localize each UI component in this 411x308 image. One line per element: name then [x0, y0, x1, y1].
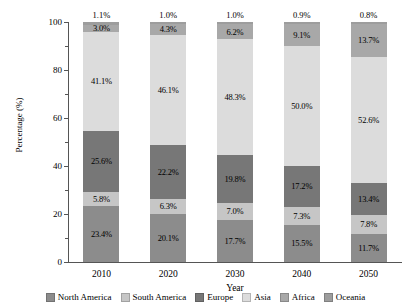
bar-segment-label: 22.2%	[158, 168, 179, 177]
bar-segment[interactable]: 7.8%	[351, 215, 387, 234]
plot-area: 020406080100 23.4%5.8%25.6%41.1%3.0%1.1%…	[68, 22, 402, 262]
bar-group: 11.7%7.8%13.4%52.6%13.7%0.8%2050	[351, 22, 387, 262]
bar-segment-label: 17.2%	[291, 182, 312, 191]
x-axis-tick-label: 2040	[292, 269, 311, 279]
x-axis-tick-label: 2050	[359, 269, 378, 279]
bar-segment-label: 7.0%	[227, 207, 244, 216]
legend-swatch-icon	[46, 293, 55, 302]
bar-segment[interactable]: 6.3%	[150, 199, 186, 214]
bar-segment[interactable]: 19.8%	[217, 155, 253, 203]
stacked-bar[interactable]: 23.4%5.8%25.6%41.1%3.0%1.1%	[83, 22, 119, 262]
bar-segment[interactable]: 15.5%	[284, 225, 320, 262]
bar-segment[interactable]: 41.1%	[83, 32, 119, 131]
y-axis-minor-tick	[65, 190, 68, 191]
y-axis-tick-label: 0	[58, 257, 63, 267]
bar-segment[interactable]: 3.0%	[83, 25, 119, 32]
y-axis-tick	[64, 118, 68, 119]
bar-segment-label: 52.6%	[358, 116, 379, 125]
bar-segment[interactable]: 9.1%	[284, 24, 320, 46]
bar-segment-label: 50.0%	[291, 102, 312, 111]
bar-segment-label: 6.3%	[160, 202, 177, 211]
stacked-bar-chart: Percentage (%) 020406080100 23.4%5.8%25.…	[0, 0, 411, 308]
bar-segment[interactable]: 13.4%	[351, 183, 387, 215]
y-axis-tick-label: 80	[53, 65, 62, 75]
bar-segment[interactable]: 23.4%	[83, 206, 119, 262]
bar-segment[interactable]: 0.9%	[284, 22, 320, 24]
bar-segment[interactable]: 20.1%	[150, 214, 186, 262]
bar-segment[interactable]: 0.8%	[351, 22, 387, 24]
bar-segment-label: 19.8%	[225, 175, 246, 184]
x-axis-line	[68, 262, 402, 263]
x-axis-tick-label: 2030	[226, 269, 245, 279]
bar-segment-label: 17.7%	[225, 237, 246, 246]
y-axis-tick	[64, 22, 68, 23]
bar-segment[interactable]: 46.1%	[150, 35, 186, 146]
bar-segment-label-above: 0.8%	[360, 10, 378, 20]
bar-segment-label-above: 1.0%	[226, 10, 244, 20]
bar-segment[interactable]: 6.2%	[217, 24, 253, 39]
bar-segment-label: 41.1%	[91, 77, 112, 86]
bar-segment-label: 13.4%	[358, 195, 379, 204]
bar-segment-label: 4.3%	[160, 25, 177, 34]
legend-item[interactable]: Oceania	[324, 292, 365, 302]
bar-group: 20.1%6.3%22.2%46.1%4.3%1.0%2020	[150, 22, 186, 262]
legend-label: Europe	[207, 292, 233, 302]
stacked-bar[interactable]: 20.1%6.3%22.2%46.1%4.3%1.0%	[150, 22, 186, 262]
y-axis-tick-label: 100	[49, 17, 63, 27]
legend-label: Asia	[254, 292, 271, 302]
stacked-bar[interactable]: 15.5%7.3%17.2%50.0%9.1%0.9%	[284, 22, 320, 262]
bar-segment-label: 7.8%	[360, 220, 377, 229]
legend-swatch-icon	[195, 293, 204, 302]
y-axis-minor-tick	[65, 238, 68, 239]
bar-segment-label-above: 1.0%	[159, 10, 177, 20]
bar-segment-label: 7.3%	[293, 212, 310, 221]
bar-segment[interactable]: 11.7%	[351, 234, 387, 262]
bar-group: 17.7%7.0%19.8%48.3%6.2%1.0%2030	[217, 22, 253, 262]
y-axis-minor-tick	[65, 94, 68, 95]
bar-segment[interactable]: 17.7%	[217, 220, 253, 262]
bar-segment-label: 48.3%	[225, 93, 246, 102]
x-axis-tick-label: 2020	[159, 269, 178, 279]
bar-segment-label: 20.1%	[158, 234, 179, 243]
bar-segment[interactable]: 7.0%	[217, 203, 253, 220]
bar-segment[interactable]: 7.3%	[284, 207, 320, 225]
stacked-bar[interactable]: 11.7%7.8%13.4%52.6%13.7%0.8%	[351, 22, 387, 262]
legend-label: South America	[133, 292, 187, 302]
bar-segment[interactable]: 52.6%	[351, 57, 387, 183]
y-axis-minor-tick	[65, 46, 68, 47]
bar-segment-label-above: 0.9%	[293, 10, 311, 20]
y-axis-line	[68, 22, 69, 262]
bar-segment-label-above: 1.1%	[93, 10, 111, 20]
legend-swatch-icon	[121, 293, 130, 302]
bar-segment[interactable]: 50.0%	[284, 46, 320, 166]
legend-item[interactable]: South America	[121, 292, 187, 302]
legend-item[interactable]: Europe	[195, 292, 233, 302]
bar-segment[interactable]: 25.6%	[83, 131, 119, 192]
legend-item[interactable]: North America	[46, 292, 112, 302]
bar-segment[interactable]: 1.0%	[150, 22, 186, 24]
legend-label: Africa	[292, 292, 315, 302]
y-axis-tick	[64, 70, 68, 71]
bar-segment-label: 23.4%	[91, 230, 112, 239]
bar-segment[interactable]: 1.1%	[83, 22, 119, 25]
stacked-bar[interactable]: 17.7%7.0%19.8%48.3%6.2%1.0%	[217, 22, 253, 262]
bar-segment[interactable]: 13.7%	[351, 24, 387, 57]
y-axis-minor-tick	[65, 142, 68, 143]
bar-group: 15.5%7.3%17.2%50.0%9.1%0.9%2040	[284, 22, 320, 262]
bar-segment-label: 5.8%	[93, 195, 110, 204]
bar-segment-label: 11.7%	[358, 244, 379, 253]
bar-segment[interactable]: 1.0%	[217, 22, 253, 24]
y-axis-tick	[64, 262, 68, 263]
legend-swatch-icon	[242, 293, 251, 302]
bar-segment-label: 25.6%	[91, 157, 112, 166]
bar-segment[interactable]: 48.3%	[217, 39, 253, 155]
bar-segment[interactable]: 4.3%	[150, 24, 186, 34]
bar-segment[interactable]: 5.8%	[83, 192, 119, 206]
bar-segment[interactable]: 17.2%	[284, 166, 320, 207]
bar-segment[interactable]: 22.2%	[150, 145, 186, 198]
bar-segment-label: 9.1%	[293, 31, 310, 40]
legend-item[interactable]: Asia	[242, 292, 271, 302]
y-axis-tick-label: 20	[53, 209, 62, 219]
legend-item[interactable]: Africa	[280, 292, 315, 302]
bar-segment-label: 6.2%	[227, 28, 244, 37]
